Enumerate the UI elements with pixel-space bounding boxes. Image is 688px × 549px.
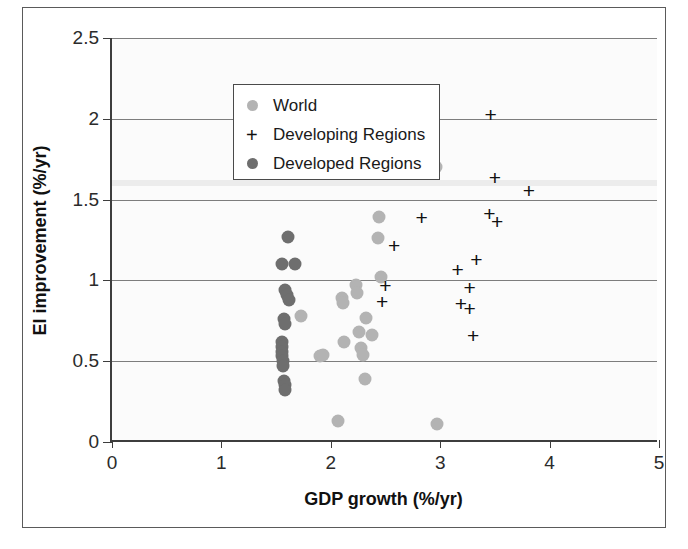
y-tick-label: 2.5 (73, 27, 99, 49)
figure-root: EI improvement (%/yr) 00.511.522.5 01234… (0, 0, 688, 549)
data-point: + (523, 179, 535, 200)
data-point (351, 287, 364, 300)
x-tick (550, 440, 551, 448)
plus-icon: + (246, 125, 258, 145)
data-point (359, 311, 372, 324)
legend-item-developing-regions: + Developing Regions (234, 120, 439, 149)
y-tick (103, 442, 112, 443)
data-point (278, 384, 291, 397)
data-point (356, 348, 369, 361)
x-tick-label: 0 (107, 452, 118, 474)
data-point (336, 297, 349, 310)
x-tick (659, 440, 660, 448)
data-point (353, 326, 366, 339)
data-point: + (489, 166, 501, 187)
data-point (278, 318, 291, 331)
developing-marker-icon: + (247, 125, 273, 145)
data-point: + (415, 207, 427, 228)
data-point (332, 414, 345, 427)
plot-area: 00.511.522.5 012345 ++++++++++++++++ Wor… (110, 38, 657, 442)
data-point: + (491, 210, 503, 231)
data-point (371, 232, 384, 245)
data-point (366, 329, 379, 342)
gridline (112, 361, 657, 362)
data-point: + (452, 259, 464, 280)
x-tick-label: 2 (326, 452, 337, 474)
data-point: + (467, 325, 479, 346)
data-point (358, 372, 371, 385)
x-tick (440, 440, 441, 448)
y-tick (103, 38, 112, 39)
data-point: + (484, 103, 496, 124)
chart-legend: World + Developing Regions Developed Reg… (233, 84, 440, 180)
data-point (337, 335, 350, 348)
y-tick-label: 0.5 (73, 350, 99, 372)
x-tick-label: 4 (544, 452, 555, 474)
data-point (275, 258, 288, 271)
legend-label-developing-regions: Developing Regions (273, 125, 425, 145)
data-point (372, 211, 385, 224)
legend-label-developed-regions: Developed Regions (273, 154, 421, 174)
data-point: + (388, 234, 400, 255)
data-point (295, 309, 308, 322)
legend-item-developed-regions: Developed Regions (234, 149, 439, 178)
circle-icon (247, 100, 258, 111)
scan-artifact-band (112, 180, 657, 186)
y-tick (103, 280, 112, 281)
data-point: + (464, 297, 476, 318)
x-tick-label: 3 (435, 452, 446, 474)
y-axis-title-text: EI improvement (%/yr) (30, 145, 51, 335)
x-tick (331, 440, 332, 448)
data-point (283, 293, 296, 306)
data-point: + (376, 291, 388, 312)
y-tick (103, 119, 112, 120)
x-tick (221, 440, 222, 448)
y-axis-title: EI improvement (%/yr) (27, 38, 53, 442)
x-tick-label: 1 (216, 452, 227, 474)
legend-item-world: World (234, 91, 439, 120)
legend-label-world: World (273, 96, 317, 116)
y-tick (103, 200, 112, 201)
x-axis-title: GDP growth (%/yr) (110, 489, 657, 510)
data-point (430, 418, 443, 431)
y-tick-label: 1.5 (73, 189, 99, 211)
gridline (112, 200, 657, 201)
y-tick-label: 2 (88, 108, 99, 130)
circle-icon (247, 158, 258, 169)
data-point (276, 360, 289, 373)
data-point (317, 348, 330, 361)
data-point (288, 258, 301, 271)
world-marker-icon (247, 100, 273, 111)
y-tick (103, 361, 112, 362)
x-tick (112, 440, 113, 448)
data-point: + (470, 249, 482, 270)
y-tick-label: 0 (88, 431, 99, 453)
x-tick-label: 5 (654, 452, 665, 474)
data-point (282, 230, 295, 243)
developed-marker-icon (247, 158, 273, 169)
gridline (112, 38, 657, 39)
y-tick-label: 1 (88, 269, 99, 291)
